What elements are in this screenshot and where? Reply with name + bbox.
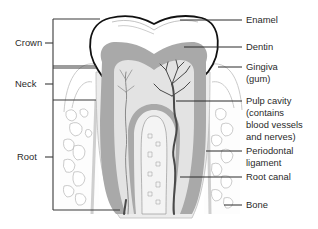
label-gingiva: Gingiva bbox=[246, 61, 279, 72]
label-crown: Crown bbox=[15, 37, 42, 48]
label-gingiva-sub: (gum) bbox=[246, 73, 270, 84]
label-pulp-cavity-line2: (contains bbox=[246, 107, 284, 118]
label-pulp-cavity: Pulp cavity bbox=[246, 95, 292, 106]
label-enamel: Enamel bbox=[246, 14, 278, 25]
label-pulp-cavity-line4: and nerves) bbox=[246, 131, 296, 142]
label-root: Root bbox=[17, 151, 37, 162]
label-neck: Neck bbox=[15, 78, 37, 89]
inter-root-bone bbox=[141, 116, 167, 214]
label-dentin: Dentin bbox=[246, 41, 273, 52]
label-pulp-cavity-line3: blood vessels bbox=[246, 119, 303, 130]
tooth-anatomy-diagram: Crown Neck Root Enamel Dentin Gingiva (g… bbox=[0, 0, 318, 229]
label-bone: Bone bbox=[246, 199, 268, 210]
label-root-canal: Root canal bbox=[246, 171, 291, 182]
label-periodontal-line2: ligament bbox=[246, 157, 282, 168]
label-periodontal: Periodontal bbox=[246, 145, 293, 156]
